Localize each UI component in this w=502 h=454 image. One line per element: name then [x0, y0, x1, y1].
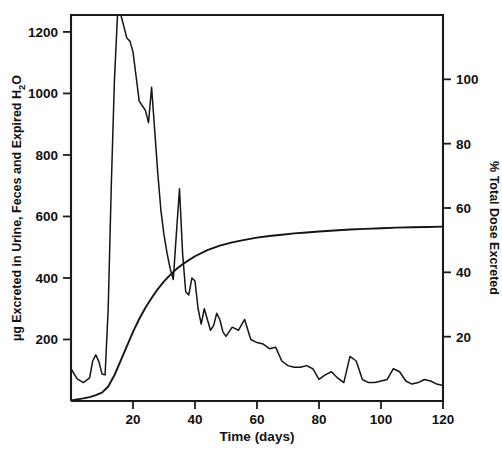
- left-tick-label: 600: [35, 209, 58, 224]
- x-tick-label: 20: [125, 412, 140, 427]
- left-tick-label: 200: [35, 332, 58, 347]
- left-tick-label: 400: [35, 271, 58, 286]
- right-tick-label: 100: [456, 72, 479, 87]
- right-tick-label: 60: [456, 201, 471, 216]
- right-tick-label: 40: [456, 265, 471, 280]
- left-axis-tick-labels: 20040060080010001200: [28, 25, 58, 348]
- left-axis-ticks: [63, 32, 71, 340]
- right-axis-ticks: [443, 79, 451, 336]
- x-axis-title: Time (days): [220, 429, 295, 444]
- y-axis-title-right: % Total Dose Excreted: [487, 161, 501, 295]
- right-tick-label: 80: [456, 137, 471, 152]
- x-tick-label: 100: [370, 412, 393, 427]
- x-tick-label: 60: [249, 412, 264, 427]
- excretion-line-chart: 20040060080010001200 20406080100 2040608…: [0, 0, 502, 454]
- cumulative-dose-line: [71, 227, 443, 401]
- x-tick-label: 40: [187, 412, 202, 427]
- x-axis-tick-labels: 20406080100120: [125, 412, 454, 427]
- svg-text:µg Excreted in Urine, Feces an: µg Excreted in Urine, Feces and Expired …: [10, 75, 27, 341]
- right-axis-tick-labels: 20406080100: [456, 72, 479, 344]
- daily-excretion-line: [71, 14, 443, 386]
- svg-text:% Total Dose Excreted: % Total Dose Excreted: [487, 161, 501, 295]
- y-axis-title-left: µg Excreted in Urine, Feces and Expired …: [10, 75, 27, 341]
- left-tick-label: 1000: [28, 86, 58, 101]
- right-tick-label: 20: [456, 330, 471, 345]
- x-axis-ticks: [133, 401, 443, 409]
- x-tick-label: 120: [432, 412, 455, 427]
- chart-figure: 20040060080010001200 20406080100 2040608…: [0, 0, 502, 454]
- left-tick-label: 1200: [28, 25, 58, 40]
- left-tick-label: 800: [35, 148, 58, 163]
- x-tick-label: 80: [311, 412, 326, 427]
